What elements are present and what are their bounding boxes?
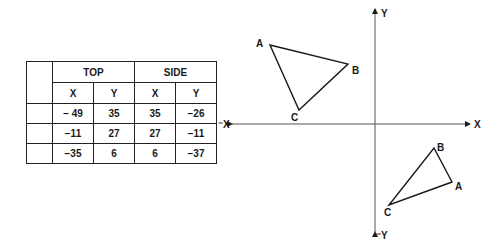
- side-vertex-b-label: B: [437, 142, 444, 153]
- top-vertex-b-label: B: [352, 65, 359, 76]
- side-vertex-a-label: A: [455, 181, 462, 192]
- top-vertex-c-label: C: [291, 112, 298, 123]
- side-view-triangle: [389, 148, 452, 205]
- top-vertex-a-label: A: [256, 38, 263, 49]
- y-positive-label: Y: [381, 8, 388, 19]
- x-positive-label: X: [474, 119, 481, 130]
- coordinate-plane: X ⁻X Y ⁻Y A B C A B C: [0, 0, 492, 241]
- x-negative-label: ⁻X: [218, 119, 230, 130]
- top-view-triangle: [270, 45, 348, 110]
- y-negative-label: ⁻Y: [376, 230, 388, 241]
- side-vertex-c-label: C: [384, 207, 391, 218]
